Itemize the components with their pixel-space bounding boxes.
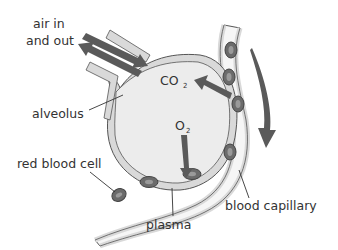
blood-capillary-leader <box>239 170 249 198</box>
red-blood-cell <box>232 96 244 112</box>
red-blood-cell-leader <box>90 172 115 192</box>
label-alveolus: alveolus <box>32 106 84 121</box>
label-blood-capillary: blood capillary <box>225 198 317 213</box>
red-blood-cell <box>140 177 158 188</box>
alveolus-diagram: air in and out alveolus red blood cell p… <box>0 0 338 250</box>
red-blood-cell <box>225 42 237 58</box>
label-o2: O <box>175 118 185 133</box>
red-blood-cell <box>224 144 236 160</box>
blood-flow-arrow <box>250 48 276 148</box>
label-co2: CO <box>160 73 179 88</box>
red-blood-cell <box>110 186 129 204</box>
label-co2-subscript: 2 <box>183 82 187 90</box>
label-air-in: air in <box>33 16 65 31</box>
label-and-out: and out <box>26 33 74 48</box>
label-plasma: plasma <box>146 217 191 232</box>
label-o2-subscript: 2 <box>186 127 190 135</box>
red-blood-cell <box>223 69 235 85</box>
label-red-blood-cell: red blood cell <box>17 156 102 171</box>
